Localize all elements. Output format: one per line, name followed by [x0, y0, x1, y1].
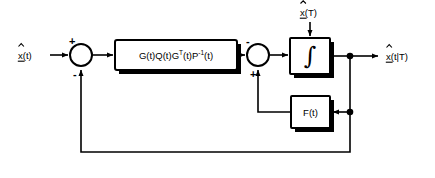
input-hat-accent [19, 44, 24, 47]
gain-label-part-3: (t)P [183, 50, 198, 61]
output-signal-label-group: x(t|T) [386, 45, 408, 63]
summing-junction-left[interactable] [70, 44, 92, 66]
input-signal-label-group: x(t) [18, 44, 32, 62]
integral-icon: ∫ [304, 42, 317, 70]
output-tap-dot [347, 53, 354, 60]
gain-label-part-1: G(t)Q(t)G [139, 50, 179, 61]
output-hat-accent [387, 45, 392, 48]
input-signal-label: x(t) [18, 50, 32, 61]
block-diagram-canvas: x(t) x(T) x(t|T) G(t)Q(t)GT(t)P-1(t) [0, 0, 435, 178]
sum1-plus-sign: + [69, 35, 75, 47]
initial-condition-hat-accent [301, 1, 306, 4]
sum1-minus-sign: - [73, 68, 77, 80]
block-diagram-svg: x(t) x(T) x(t|T) G(t)Q(t)GT(t)P-1(t) [0, 0, 435, 178]
gain-label-part-5: (t) [204, 50, 213, 61]
initial-condition-label: x(T) [300, 7, 317, 18]
summing-junction-right[interactable] [247, 44, 269, 66]
initial-condition-label-group: x(T) [300, 1, 317, 18]
output-signal-label: x(t|T) [386, 51, 408, 62]
feedback-tap-dot [347, 109, 354, 116]
feedback-block-label: F(t) [303, 107, 318, 118]
sum2-minus-sign: - [246, 35, 250, 47]
wire-feedback-to-sum2 [258, 70, 291, 112]
sum2-plus-sign: + [250, 68, 256, 80]
